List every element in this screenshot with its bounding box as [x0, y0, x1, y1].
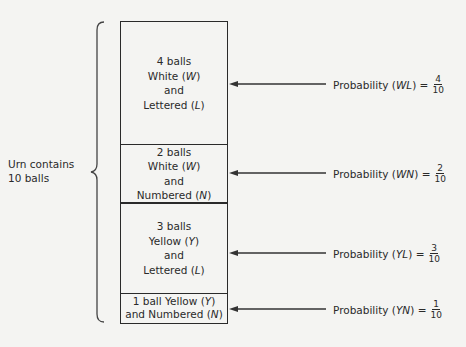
- ball-count-color: 1 ball Yellow (Y): [133, 295, 216, 308]
- conjunction: and: [164, 83, 184, 98]
- urn-label: Urn contains 10 balls: [8, 157, 74, 185]
- fraction: 310: [428, 243, 439, 264]
- conjunction: and: [164, 248, 184, 263]
- ball-count: 3 balls: [157, 219, 191, 234]
- ball-color: Yellow (Y): [149, 234, 199, 249]
- urn-label-line1: Urn contains: [8, 157, 74, 171]
- urn-section-white-numbered: 2 balls White (W) and Numbered (N): [120, 144, 228, 204]
- arrow-left-icon: [229, 80, 326, 88]
- ball-type: Lettered (L): [143, 98, 204, 113]
- fraction: 110: [430, 299, 441, 320]
- ball-type: and Numbered (N): [125, 308, 223, 321]
- conjunction: and: [164, 174, 184, 189]
- probability-wl: Probability (WL) = 410: [333, 74, 444, 95]
- ball-type: Lettered (L): [143, 263, 204, 278]
- probability-yn: Probability (YN) = 110: [333, 299, 442, 320]
- arrow-left-icon: [229, 305, 326, 313]
- urn-section-white-lettered: 4 balls White (W) and Lettered (L): [120, 21, 228, 145]
- fraction: 410: [432, 74, 443, 95]
- arrow-left-icon: [229, 169, 326, 177]
- urn-section-yellow-lettered: 3 balls Yellow (Y) and Lettered (L): [120, 202, 228, 294]
- ball-type: Numbered (N): [137, 188, 211, 203]
- urn-label-line2: 10 balls: [8, 171, 74, 185]
- urn-section-yellow-numbered: 1 ball Yellow (Y) and Numbered (N): [120, 293, 228, 324]
- ball-count: 2 balls: [157, 145, 191, 160]
- probability-yl: Probability (YL) = 310: [333, 243, 440, 264]
- ball-color: White (W): [148, 69, 200, 84]
- curly-brace-icon: [88, 20, 108, 326]
- probability-wn: Probability (WN) = 210: [333, 163, 446, 184]
- arrow-left-icon: [229, 249, 326, 257]
- ball-color: White (W): [148, 159, 200, 174]
- fraction: 210: [434, 163, 445, 184]
- ball-count: 4 balls: [157, 54, 191, 69]
